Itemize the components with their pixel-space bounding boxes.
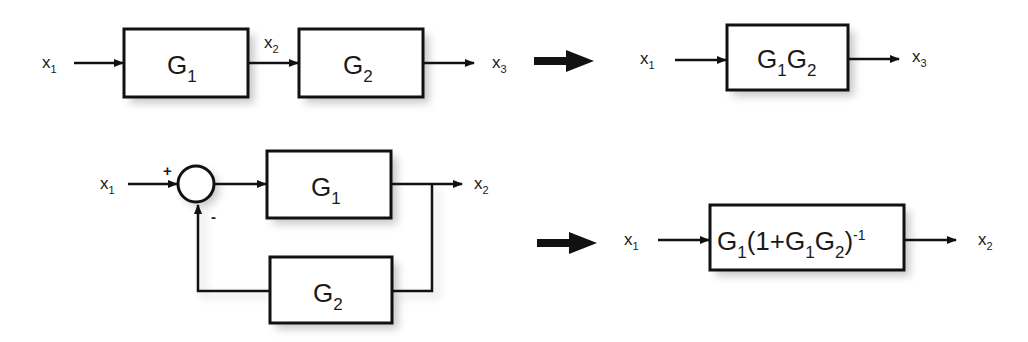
output-label-x3: x3	[492, 53, 507, 75]
summing-junction	[178, 166, 214, 202]
input-label-x1: x1	[100, 174, 115, 196]
series-reduced: x1 G1G2 x3	[640, 25, 927, 96]
input-label-x1: x1	[624, 230, 639, 252]
intermediate-label-x2: x2	[264, 33, 279, 55]
block-diagram: x1 G1 x2 G2 x3 x1 G1G2 x3 x1	[0, 0, 1028, 342]
summer-minus-sign: -	[211, 208, 216, 225]
output-label-x3: x3	[912, 47, 927, 69]
reduces-to-arrow-icon	[537, 232, 597, 254]
input-label-x1: x1	[640, 49, 655, 71]
input-label-x1: x1	[42, 53, 57, 75]
feedback-path-left	[198, 205, 270, 291]
reduces-to-arrow-icon	[534, 50, 594, 72]
feedback-original: x1 + - G1 x2 G2	[100, 151, 489, 329]
output-label-x2: x2	[978, 230, 993, 252]
feedback-reduced: x1 G1(1+G1G2)-1 x2	[624, 205, 993, 276]
output-label-x2: x2	[474, 174, 489, 196]
series-original: x1 G1 x2 G2 x3	[42, 29, 507, 103]
summer-plus-sign: +	[163, 162, 172, 179]
